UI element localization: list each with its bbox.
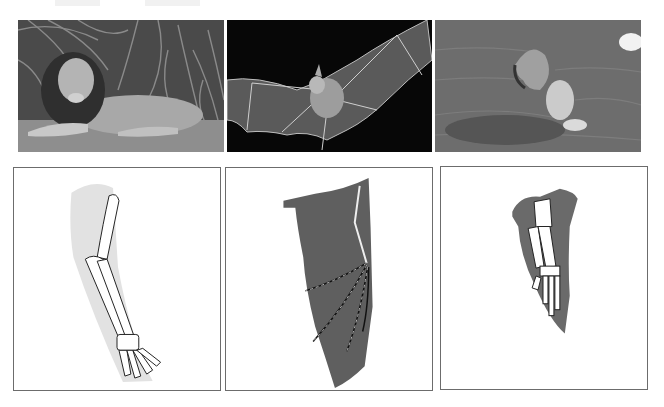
lion-forelimb-diagram (13, 167, 221, 391)
cropped-caption-fragment (55, 0, 100, 6)
bat-photo (227, 20, 432, 152)
lion-photo (18, 20, 224, 152)
bat-wing-diagram (225, 167, 433, 391)
dolphin-photo (435, 20, 641, 152)
dolphin-flipper-diagram (440, 166, 648, 390)
cropped-caption-fragment (145, 0, 200, 6)
